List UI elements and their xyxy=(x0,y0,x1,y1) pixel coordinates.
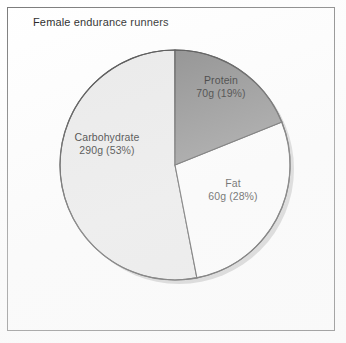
slice-label-carbohydrate-value: 290g (53%) xyxy=(55,144,159,157)
slice-label-protein-value: 70g (19%) xyxy=(178,87,264,100)
slice-label-fat-name: Fat xyxy=(190,177,276,190)
pie-plot-area xyxy=(0,0,346,343)
slice-label-fat: Fat 60g (28%) xyxy=(190,177,276,203)
slice-label-fat-value: 60g (28%) xyxy=(190,190,276,203)
pie-svg xyxy=(0,0,346,343)
slice-label-carbohydrate: Carbohydrate 290g (53%) xyxy=(55,131,159,157)
slice-label-carbohydrate-name: Carbohydrate xyxy=(55,131,159,144)
slice-label-protein-name: Protein xyxy=(178,74,264,87)
pie-chart-figure: Female endurance runners Protein 70g (19… xyxy=(0,0,346,343)
slice-label-protein: Protein 70g (19%) xyxy=(178,74,264,100)
